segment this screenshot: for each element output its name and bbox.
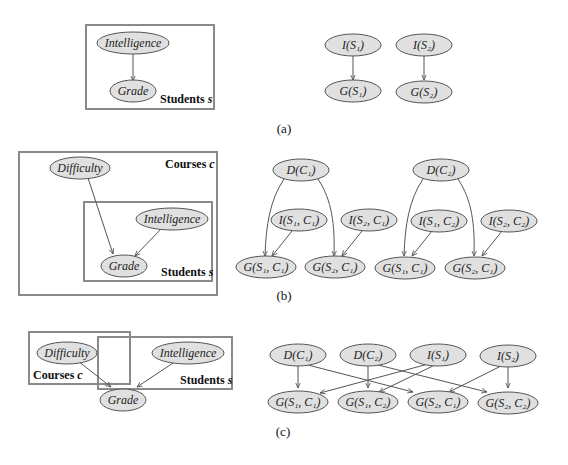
node-G-S2[interactable]: G(S₂)	[396, 81, 452, 103]
svg-text:Grade: Grade	[118, 84, 149, 98]
edge-intelligence-grade	[137, 361, 176, 387]
svg-text:G(S₂, C₁): G(S₂, C₁)	[415, 395, 460, 409]
svg-text:Grade: Grade	[108, 393, 139, 407]
svg-text:Courses c: Courses c	[33, 368, 83, 382]
panel-b: Courses c Students s Difficulty Intellig…	[19, 152, 537, 303]
node-G-S2-C1[interactable]: G(S₂, C₁)	[408, 391, 468, 413]
node-I-S2-C1[interactable]: I(S₂, C₁)	[341, 209, 397, 231]
node-D-C2[interactable]: D(C₂)	[340, 344, 396, 366]
node-difficulty[interactable]: Difficulty	[50, 157, 110, 179]
panel-a: Students s Intelligence Grade I(S₁) I(S₂…	[86, 25, 452, 136]
node-G-S1-C1[interactable]: G(S₁, C₁)	[236, 256, 296, 278]
plate-label: Students	[160, 92, 205, 106]
svg-text:I(S₁): I(S₁)	[341, 38, 364, 52]
edge-I22-G22	[482, 231, 502, 256]
node-difficulty[interactable]: Difficulty	[37, 342, 97, 364]
svg-text:G(S₂, C₁): G(S₂, C₁)	[312, 260, 357, 274]
svg-text:G(S₁, C₁): G(S₁, C₁)	[275, 395, 320, 409]
node-I-S2[interactable]: I(S₂)	[396, 34, 452, 56]
diagram-canvas: Students s Intelligence Grade I(S₁) I(S₂…	[0, 0, 568, 465]
edge-D1-G21	[304, 364, 413, 392]
node-I-S1[interactable]: I(S₁)	[410, 344, 466, 366]
node-I-S1-C2[interactable]: I(S₁, C₂)	[411, 210, 467, 232]
svg-text:G(S₂, C₂): G(S₂, C₂)	[485, 396, 530, 410]
svg-text:I(S₂, C₂): I(S₂, C₂)	[488, 214, 529, 228]
svg-text:Students s: Students s	[180, 373, 233, 387]
node-D-C1[interactable]: D(C₁)	[273, 159, 329, 181]
svg-text:Difficulty: Difficulty	[43, 346, 90, 360]
node-grade[interactable]: Grade	[101, 255, 147, 277]
svg-text:I(S₁, C₂): I(S₁, C₂)	[418, 214, 459, 228]
node-G-S1-C1-second[interactable]: G(S₁, C₁)	[375, 257, 435, 279]
node-D-C1[interactable]: D(C₁)	[270, 344, 326, 366]
svg-text:D(C₁): D(C₁)	[283, 348, 313, 362]
svg-text:Intelligence: Intelligence	[104, 36, 162, 50]
svg-text:I(S₂): I(S₂)	[412, 38, 435, 52]
caption-c: (c)	[276, 424, 290, 439]
node-G-S2-C1[interactable]: G(S₂, C₁)	[305, 256, 365, 278]
svg-text:G(S₂): G(S₂)	[411, 85, 438, 99]
node-intelligence[interactable]: Intelligence	[152, 342, 224, 364]
node-I-S2-C2[interactable]: I(S₂, C₂)	[481, 210, 537, 232]
svg-text:I(S₂, C₁): I(S₂, C₁)	[348, 213, 389, 227]
svg-text:G(S₁, C₁): G(S₁, C₁)	[243, 260, 288, 274]
edge-I12-G12	[412, 231, 432, 256]
svg-text:Students s: Students s	[161, 265, 214, 279]
svg-text:I(S₂): I(S₂)	[496, 349, 519, 363]
svg-text:Students s: Students s	[160, 92, 213, 106]
edge-difficulty-grade	[88, 178, 113, 254]
svg-text:G(S₁): G(S₁)	[340, 84, 367, 98]
edge-I21-G21	[342, 231, 362, 256]
node-grade[interactable]: Grade	[100, 389, 146, 411]
svg-text:I(S₁, C₁): I(S₁, C₁)	[278, 213, 319, 227]
node-I-S1[interactable]: I(S₁)	[325, 34, 381, 56]
svg-text:G(S₂, C₁): G(S₂, C₁)	[452, 261, 497, 275]
edge-I2-G21	[449, 364, 505, 392]
node-D-C2[interactable]: D(C₂)	[413, 159, 469, 181]
node-G-S2-C2[interactable]: G(S₂, C₂)	[478, 392, 538, 414]
node-I-S2[interactable]: I(S₂)	[480, 345, 536, 367]
svg-text:I(S₁): I(S₁)	[426, 348, 449, 362]
svg-text:Grade: Grade	[109, 259, 140, 273]
node-G-S1-C2[interactable]: G(S₁, C₂)	[338, 391, 398, 413]
svg-text:Intelligence: Intelligence	[159, 346, 217, 360]
node-G-S1-C1[interactable]: G(S₁, C₁)	[268, 391, 328, 413]
svg-text:Difficulty: Difficulty	[56, 161, 103, 175]
svg-text:G(S₁, C₂): G(S₁, C₂)	[345, 395, 390, 409]
edge-I11-G11	[272, 231, 292, 256]
node-G-S2-C1-second[interactable]: G(S₂, C₁)	[445, 257, 505, 279]
node-G-S1[interactable]: G(S₁)	[325, 80, 381, 102]
node-I-S1-C1[interactable]: I(S₁, C₁)	[271, 209, 327, 231]
svg-text:Courses c: Courses c	[165, 157, 215, 171]
panel-c: Courses c Students s Difficulty Intellig…	[29, 332, 538, 439]
node-grade[interactable]: Grade	[110, 80, 156, 102]
edge-I1-G11	[320, 363, 432, 393]
edge-intelligence-grade	[135, 229, 161, 256]
caption-a: (a)	[277, 121, 291, 136]
svg-text:D(C₁): D(C₁)	[286, 163, 316, 177]
caption-b: (b)	[276, 288, 291, 303]
svg-text:D(C₂): D(C₂)	[426, 163, 456, 177]
svg-text:Intelligence: Intelligence	[143, 212, 201, 226]
node-intelligence[interactable]: Intelligence	[136, 208, 208, 230]
edge-I1-G12	[379, 364, 437, 392]
edge-D2-G22	[374, 364, 487, 392]
plate-var: s	[207, 92, 213, 106]
svg-text:D(C₂): D(C₂)	[353, 348, 383, 362]
node-intelligence[interactable]: Intelligence	[97, 32, 169, 54]
svg-text:G(S₁, C₁): G(S₁, C₁)	[382, 261, 427, 275]
